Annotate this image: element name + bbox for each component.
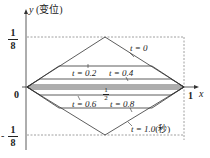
y-bottom-fraction: 18 bbox=[8, 125, 18, 148]
curve-t0 bbox=[27, 37, 184, 87]
y-unit: (变位) bbox=[36, 4, 63, 15]
y-axis-arrow-icon bbox=[24, 9, 28, 14]
mid-den: 2 bbox=[104, 94, 108, 102]
origin-label: 0 bbox=[14, 90, 19, 100]
y-top-fraction: 18 bbox=[8, 28, 18, 51]
label-t08: t = 0.8 bbox=[110, 99, 134, 109]
y-axis-label: y (变位) bbox=[29, 5, 63, 15]
label-t10-value: t = 1.0 bbox=[131, 124, 155, 134]
y-bot-num: 1 bbox=[11, 124, 16, 135]
y-symbol: y bbox=[29, 4, 33, 15]
x-axis-label: x bbox=[199, 89, 203, 99]
mid-fraction: 12 bbox=[103, 87, 109, 102]
label-t02: t = 0.2 bbox=[72, 68, 96, 78]
x-end-label: 1 bbox=[188, 91, 193, 101]
y-top-num: 1 bbox=[11, 27, 16, 38]
y-bottom-sign: - bbox=[1, 131, 4, 141]
mid-num: 1 bbox=[104, 86, 108, 94]
label-t10: t = 1.0(秒) bbox=[131, 124, 170, 134]
label-t10-unit: (秒) bbox=[155, 124, 170, 134]
y-top-den: 8 bbox=[11, 40, 16, 51]
label-t0: t = 0 bbox=[130, 43, 148, 53]
label-t04: t = 0.4 bbox=[109, 68, 133, 78]
label-t06: t = 0.6 bbox=[72, 99, 96, 109]
y-bot-den: 8 bbox=[11, 137, 16, 148]
string-displacement-diagram bbox=[0, 0, 210, 158]
curve-t02 bbox=[27, 66, 184, 87]
